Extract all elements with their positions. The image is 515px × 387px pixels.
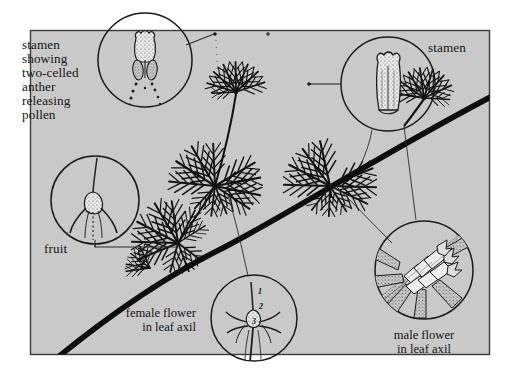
leader-marker bbox=[213, 32, 217, 36]
label-line: stamen bbox=[22, 37, 60, 52]
label-stamen: stamen bbox=[428, 40, 466, 55]
label-line: female flower bbox=[126, 306, 197, 320]
label-line: male flower bbox=[394, 328, 455, 342]
leader-marker bbox=[307, 82, 311, 86]
label-fruit: fruit bbox=[44, 241, 67, 256]
label-male-flower: male flower in leaf axil bbox=[394, 328, 455, 356]
botanical-figure: 1 2 3 bbox=[0, 0, 515, 387]
label-line: in leaf axil bbox=[142, 320, 196, 334]
female-part-number: 1 bbox=[258, 287, 262, 296]
label-line: two-celled bbox=[22, 65, 79, 80]
label-line: pollen bbox=[22, 107, 56, 122]
female-part-number: 3 bbox=[251, 317, 256, 326]
label-line: releasing bbox=[22, 93, 71, 108]
leader-marker bbox=[266, 32, 270, 36]
label-line: showing bbox=[22, 51, 68, 66]
plant-branch bbox=[330, 186, 331, 198]
label-line: anther bbox=[22, 79, 56, 94]
female-part-number: 2 bbox=[258, 302, 263, 311]
label-line: in leaf axil bbox=[397, 342, 451, 356]
